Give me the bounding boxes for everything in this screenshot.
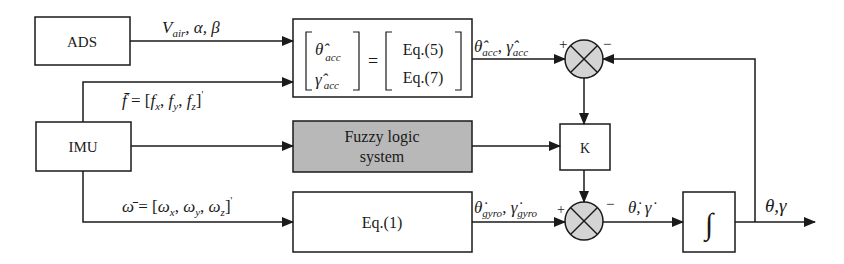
summing-junction-1: + − bbox=[559, 36, 611, 78]
imu-block: IMU bbox=[36, 122, 131, 171]
gain-k-block: K bbox=[560, 124, 610, 170]
imu-label: IMU bbox=[68, 139, 97, 155]
integrator-block: ∫ bbox=[683, 192, 735, 252]
eq7-label: Eq.(7) bbox=[403, 69, 443, 87]
fuzzy-label-line1: Fuzzy logic bbox=[344, 128, 419, 146]
acc-output-label: θ̂acc, γ̂acc bbox=[474, 37, 528, 58]
svg-text:=: = bbox=[368, 51, 378, 71]
eq1-label: Eq.(1) bbox=[362, 214, 402, 232]
summing-junction-2: + − bbox=[557, 196, 614, 240]
fuzzy-logic-block: Fuzzy logic system bbox=[293, 121, 472, 172]
eq5-label: Eq.(5) bbox=[403, 41, 443, 59]
rate-label: θ̇, γ̇ bbox=[628, 198, 657, 217]
gyro-equation-block: Eq.(1) bbox=[293, 192, 472, 252]
output-label: θ,γ bbox=[765, 195, 787, 216]
gyro-output-label: θ̇gyro, γ̇gyro bbox=[474, 198, 538, 219]
ads-output-label: Vair, α, β bbox=[162, 18, 220, 39]
acc-equation-block: θ̂acc γ̂acc = Eq.(5) Eq.(7) bbox=[293, 19, 472, 97]
gain-label: K bbox=[580, 141, 590, 156]
sum1-plus: + bbox=[559, 36, 567, 52]
fuzzy-label-line2: system bbox=[360, 148, 405, 166]
sum1-minus: − bbox=[603, 36, 611, 52]
integral-icon: ∫ bbox=[703, 207, 715, 243]
omega-vector-label: ω̄ = [ωx, ωy, ωz]' bbox=[122, 195, 233, 218]
ads-block: ADS bbox=[35, 17, 130, 65]
sum2-plus: + bbox=[557, 202, 565, 217]
block-diagram: ADS IMU θ̂acc γ̂acc = Eq.(5) Eq.(7) Fuzz… bbox=[0, 0, 844, 264]
f-vector-label: f̄ = [fx, fy, fz]' bbox=[122, 89, 203, 112]
ads-label: ADS bbox=[67, 34, 97, 50]
sum2-minus: − bbox=[606, 196, 614, 212]
